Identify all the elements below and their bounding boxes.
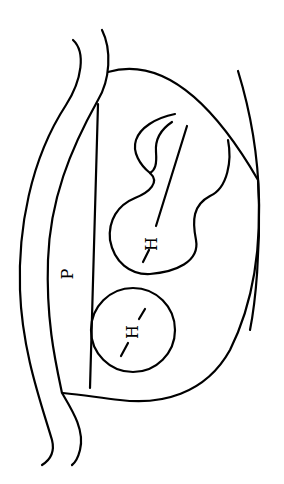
outer-curve-right [48, 30, 109, 465]
h-label-upper: H [142, 237, 161, 251]
h-label-lower: H [123, 325, 142, 339]
lobed-body-inner-fold [150, 122, 172, 173]
outer-curve-left [20, 40, 81, 465]
h-line-lower-tail [121, 343, 128, 356]
diagram-canvas: P H H [0, 0, 284, 484]
p-label: P [58, 268, 77, 279]
h-line-upper [156, 126, 187, 226]
lobed-body [110, 114, 230, 274]
h-line-lower [139, 309, 145, 319]
right-curve [238, 71, 259, 330]
